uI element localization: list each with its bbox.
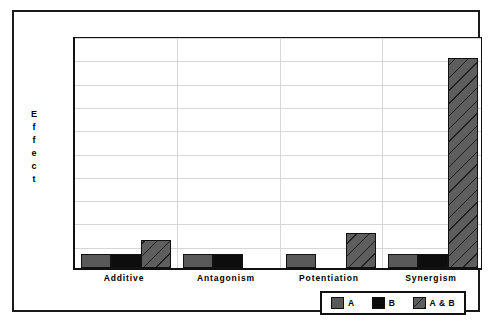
legend-entry[interactable]: A	[331, 297, 355, 309]
bar	[213, 254, 243, 268]
x-axis-category-label: Additive	[73, 273, 175, 283]
vertical-gridline	[177, 39, 178, 268]
bar	[81, 254, 111, 268]
figure-frame: Effect AdditiveAntagonismPotentiationSyn…	[12, 10, 480, 312]
horizontal-gridline	[75, 224, 481, 225]
plot-area	[73, 37, 482, 270]
chart-legend: ABA & B	[320, 291, 466, 315]
legend-swatch-icon	[372, 297, 385, 309]
bar	[141, 240, 171, 268]
bar	[183, 254, 213, 268]
vertical-gridline	[382, 39, 383, 268]
x-axis-category-label: Potentiation	[278, 273, 380, 283]
horizontal-gridline	[75, 85, 481, 86]
legend-label: A & B	[430, 298, 456, 308]
horizontal-gridline	[75, 38, 481, 39]
bar	[448, 58, 478, 268]
horizontal-gridline	[75, 61, 481, 62]
bar	[388, 254, 418, 268]
bar	[286, 254, 316, 268]
legend-entry[interactable]: B	[372, 297, 396, 309]
bar	[418, 254, 448, 268]
legend-swatch-icon	[331, 297, 344, 309]
x-axis-category-labels: AdditiveAntagonismPotentiationSynergism	[73, 273, 482, 287]
legend-swatch-icon	[413, 297, 426, 309]
horizontal-gridline	[75, 131, 481, 132]
x-axis-category-label: Synergism	[380, 273, 482, 283]
horizontal-gridline	[75, 201, 481, 202]
bar	[346, 233, 376, 268]
y-axis-tick-labels	[21, 37, 69, 270]
x-axis-category-label: Antagonism	[175, 273, 277, 283]
horizontal-gridline	[75, 178, 481, 179]
horizontal-gridline	[75, 155, 481, 156]
vertical-gridline	[280, 39, 281, 268]
horizontal-gridline	[75, 108, 481, 109]
bar	[111, 254, 141, 268]
legend-label: B	[389, 298, 396, 308]
chart-page: Effect AdditiveAntagonismPotentiationSyn…	[0, 0, 498, 327]
legend-entry[interactable]: A & B	[413, 297, 456, 309]
legend-label: A	[348, 298, 355, 308]
horizontal-gridline	[75, 248, 481, 249]
